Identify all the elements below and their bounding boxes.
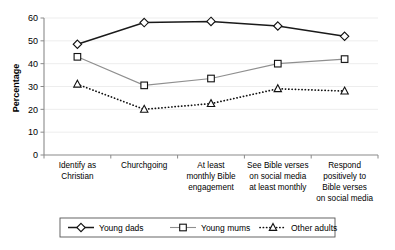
x-tick-label: At least [197, 161, 225, 170]
x-tick-label: Christian [61, 172, 94, 181]
y-axis-ticks: 0102030405060 [28, 13, 44, 160]
legend-marker-square [180, 224, 187, 231]
data-point-diamond [73, 40, 81, 48]
y-tick-label: 0 [33, 150, 38, 160]
x-tick-label: engagement [188, 183, 234, 192]
data-point-square [275, 60, 282, 67]
data-point-square [208, 75, 215, 82]
series-lines [77, 21, 344, 109]
x-tick-label: at least monthly [249, 183, 307, 192]
data-point-square [341, 56, 348, 63]
data-point-square [141, 82, 148, 89]
legend-marker-diamond [77, 223, 85, 231]
chart-container: Percentage 0102030405060 Identify asChri… [0, 0, 395, 250]
legend-label: Other adults [291, 223, 337, 233]
x-tick-label: Bible verses [322, 183, 367, 192]
y-axis-label-group: Percentage [11, 64, 21, 113]
legend-label: Young dads [99, 223, 144, 233]
x-tick-label: monthly Bible [186, 172, 236, 181]
x-tick-label: Respond [328, 161, 361, 170]
data-point-diamond [207, 17, 215, 25]
x-tick-label: Identify as [59, 161, 96, 170]
x-tick-label: on social media [316, 194, 373, 203]
x-axis-tick-labels: Identify asChristianChurchgoingAt leastm… [59, 161, 374, 203]
legend: Young dadsYoung mumsOther adults [60, 218, 337, 237]
x-tick-label: Churchgoing [121, 161, 168, 170]
y-tick-label: 60 [28, 13, 38, 23]
legend-content: Young dadsYoung mumsOther adults [68, 223, 337, 233]
data-point-square [74, 54, 81, 61]
y-tick-label: 50 [28, 36, 38, 46]
legend-label: Young mums [201, 223, 250, 233]
x-tick-label: on social media [249, 172, 306, 181]
y-axis-label: Percentage [11, 64, 21, 113]
y-tick-label: 30 [28, 82, 38, 92]
data-point-triangle [74, 80, 81, 87]
data-point-diamond [140, 18, 148, 26]
data-point-triangle [207, 100, 214, 107]
data-point-diamond [340, 32, 348, 40]
y-tick-label: 10 [28, 127, 38, 137]
x-tick-label: positively to [323, 172, 366, 181]
x-tick-label: See Bible verses [247, 161, 308, 170]
data-point-triangle [274, 85, 281, 92]
y-tick-label: 40 [28, 59, 38, 69]
line-chart: Percentage 0102030405060 Identify asChri… [0, 0, 395, 250]
data-point-diamond [274, 22, 282, 30]
y-tick-label: 20 [28, 105, 38, 115]
